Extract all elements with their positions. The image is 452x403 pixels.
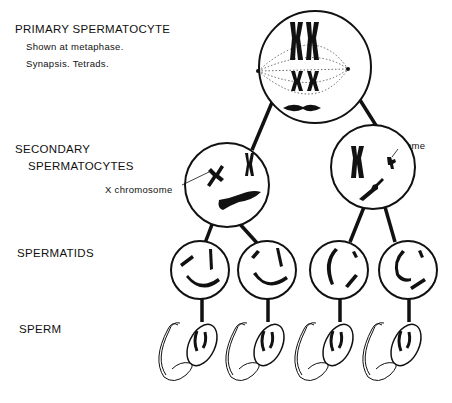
sperm-4 [363, 320, 427, 381]
primary-spermatocyte-cell [256, 11, 371, 123]
secondary-spermatocyte-right [331, 125, 415, 209]
sperm-cells [159, 320, 427, 381]
spermatid-3 [310, 241, 368, 299]
spermatogenesis-diagram [0, 0, 452, 403]
sperm-1 [159, 320, 223, 381]
centriole-right [346, 67, 350, 71]
spermatid-2 [238, 241, 296, 299]
sperm-3 [295, 320, 359, 381]
secondary-spermatocyte-left [182, 143, 269, 227]
spermatid-4 [379, 241, 437, 299]
sperm-2 [226, 320, 290, 381]
spermatid-1 [171, 241, 229, 299]
centriole-left [256, 69, 260, 73]
